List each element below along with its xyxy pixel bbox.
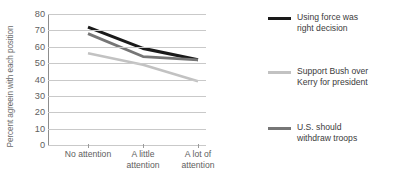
legend-item[interactable]: Using force was right decision <box>268 12 358 33</box>
gridline <box>48 96 206 97</box>
legend-item[interactable]: U.S. should withdraw troops <box>268 122 357 143</box>
x-axis-tickmark <box>143 144 144 148</box>
legend-label: U.S. should withdraw troops <box>297 122 357 143</box>
x-axis-tick-labels: No attentionA littleattentionA lot ofatt… <box>48 149 206 189</box>
y-axis-tick-label: 40 <box>35 75 45 85</box>
legend-swatch <box>268 17 291 20</box>
y-axis-tick-label: 60 <box>35 42 45 52</box>
y-axis-title-text: Percent agreein with each position <box>7 25 16 147</box>
legend-item[interactable]: Support Bush over Kerry for president <box>268 66 368 87</box>
x-axis-tickmark <box>198 144 199 148</box>
y-axis-tick-label: 20 <box>35 107 45 117</box>
gridline <box>48 80 206 81</box>
legend-label: Support Bush over Kerry for president <box>297 66 368 87</box>
y-axis-tick-label: 30 <box>35 91 45 101</box>
gridline <box>48 129 206 130</box>
chart-screenshot: Percent agreein with each position 80706… <box>0 0 398 190</box>
legend-swatch <box>268 127 291 130</box>
y-axis-tick-label: 70 <box>35 25 45 35</box>
gridline <box>48 112 206 113</box>
plot-area <box>48 14 206 145</box>
gridline <box>48 47 206 48</box>
y-axis-tick-label: 10 <box>35 124 45 134</box>
y-axis-tick-label: 0 <box>40 140 45 150</box>
legend-swatch <box>268 71 291 74</box>
series-line <box>88 27 198 60</box>
x-axis-tickmark <box>88 144 89 148</box>
gridline <box>48 63 206 64</box>
x-axis-tick-label-line: attention <box>166 160 230 171</box>
legend-label: Using force was right decision <box>297 12 358 33</box>
y-axis-tick-label: 80 <box>35 9 45 19</box>
y-axis-tick-labels: 80706050403020100 <box>22 14 48 145</box>
y-axis-title: Percent agreein with each position <box>0 0 22 172</box>
y-axis-tick-label: 50 <box>35 58 45 68</box>
x-axis-tick-label: A lot ofattention <box>166 149 230 171</box>
x-axis-tick-label-line: A lot of <box>166 149 230 160</box>
gridline <box>48 14 206 15</box>
gridline <box>48 145 206 146</box>
gridline <box>48 30 206 31</box>
